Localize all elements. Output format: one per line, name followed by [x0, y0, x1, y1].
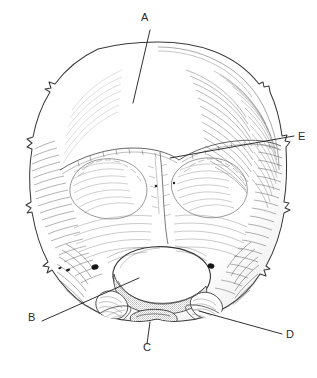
label-b: B	[28, 312, 36, 323]
label-d: D	[286, 329, 294, 340]
leader-line-D	[199, 311, 282, 334]
label-c: C	[143, 342, 151, 353]
basilar-part	[130, 309, 177, 329]
anatomy-figure: A B C D E	[0, 0, 317, 378]
skull-illustration	[0, 0, 317, 378]
label-a: A	[141, 12, 149, 23]
skull-body	[0, 0, 317, 378]
label-e: E	[298, 131, 306, 142]
